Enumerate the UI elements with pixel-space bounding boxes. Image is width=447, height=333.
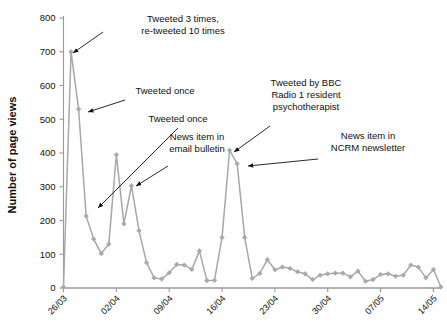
y-axis-tick-label: 600 — [40, 80, 56, 91]
y-axis-label: Number of page views — [6, 97, 18, 214]
annotation-label: Tweeted once — [135, 85, 194, 96]
annotation-label: News item inNCRM newsletter — [331, 130, 405, 153]
page-views-line-chart: Number of page views 0100200300400500600… — [0, 0, 447, 333]
annotation-label: News item inemail bulletin — [169, 131, 224, 154]
y-axis-tick-label: 500 — [40, 114, 56, 125]
y-axis-tick-label: 700 — [40, 46, 56, 57]
y-axis-tick-label: 100 — [40, 249, 56, 260]
y-axis-tick-label: 0 — [50, 282, 55, 293]
y-axis-tick-label: 200 — [40, 215, 56, 226]
y-axis-tick-label: 300 — [40, 181, 56, 192]
annotation-label: Tweeted 3 times,re-tweeted 10 times — [141, 13, 225, 36]
y-axis-tick-label: 800 — [40, 12, 56, 23]
annotation-label: Tweeted once — [148, 113, 207, 124]
chart-canvas: Number of page views 0100200300400500600… — [0, 0, 447, 333]
annotation-label: Tweeted by BBCRadio 1 residentpsychother… — [271, 77, 342, 112]
y-axis-tick-label: 400 — [40, 147, 56, 158]
